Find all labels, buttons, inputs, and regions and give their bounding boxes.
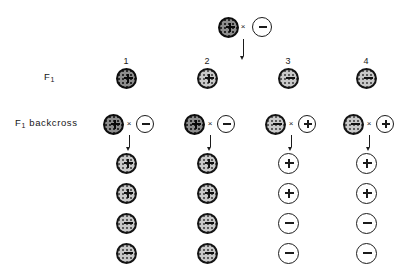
minus-sign — [358, 68, 375, 89]
arrow-shaft — [369, 135, 370, 147]
arrow-shaft — [291, 135, 292, 147]
f1-individual-4 — [356, 68, 377, 89]
sign-bar-horizontal — [273, 123, 282, 124]
minus-sign — [118, 213, 135, 234]
offspring-column-1-row-2 — [116, 183, 137, 204]
backcross-parent-3 — [265, 114, 286, 135]
plus-sign — [299, 115, 315, 133]
sign-bar-horizontal — [205, 252, 214, 253]
plus-sign — [118, 153, 135, 174]
sign-bar-vertical — [288, 189, 289, 198]
backcross-cross-symbol-2: × — [205, 119, 215, 128]
plus-sign — [357, 183, 376, 204]
backcross-parent-4 — [343, 114, 364, 135]
arrow-shaft — [243, 39, 244, 56]
minus-sign — [357, 213, 376, 234]
minus-sign — [253, 17, 271, 37]
sign-bar-vertical — [127, 189, 128, 198]
plus-sign — [279, 153, 298, 174]
minus-sign — [357, 243, 376, 264]
arrow-head — [366, 147, 370, 151]
row-label-subscript: 1 — [50, 76, 54, 83]
arrow-head — [126, 147, 130, 151]
minus-sign — [137, 115, 153, 133]
sign-bar-horizontal — [363, 222, 372, 223]
plus-sign — [105, 114, 122, 135]
plus-sign — [377, 115, 393, 133]
backcross-tester-4 — [376, 115, 394, 133]
backcross-tester-2 — [217, 115, 235, 133]
plus-sign — [220, 17, 237, 38]
plus-sign — [118, 68, 135, 89]
parental-cross-symbol: × — [238, 22, 248, 31]
arrow-shaft — [210, 135, 211, 147]
offspring-column-3-row-4 — [278, 243, 299, 264]
parental-female-circle — [218, 17, 239, 38]
genetics-cross-diagram: ×F11234F1backcross×××× — [0, 0, 407, 280]
f1-row-label: F1 — [44, 71, 54, 83]
sign-bar-horizontal — [124, 252, 133, 253]
sign-bar-horizontal — [205, 222, 214, 223]
f1-column-number-4: 4 — [356, 56, 376, 66]
offspring-column-4-row-2 — [356, 183, 377, 204]
sign-bar-horizontal — [259, 26, 267, 27]
sign-bar-vertical — [208, 159, 209, 168]
sign-bar-horizontal — [363, 252, 372, 253]
backcross-descent-arrow-1 — [125, 135, 134, 151]
sign-bar-horizontal — [285, 252, 294, 253]
sign-bar-horizontal — [124, 222, 133, 223]
plus-sign — [186, 114, 203, 135]
parental-descent-arrow — [239, 39, 248, 60]
backcross-row-label: F1backcross — [15, 117, 77, 129]
f1-column-number-3: 3 — [278, 56, 298, 66]
sign-bar-vertical — [127, 74, 128, 83]
offspring-column-3-row-1 — [278, 153, 299, 174]
backcross-cross-symbol-1: × — [124, 119, 134, 128]
arrow-head — [240, 56, 244, 60]
f1-column-number-2: 2 — [197, 56, 217, 66]
offspring-column-1-row-3 — [116, 213, 137, 234]
arrow-head — [288, 147, 292, 151]
plus-sign — [199, 68, 216, 89]
sign-bar-vertical — [114, 120, 115, 129]
offspring-column-3-row-2 — [278, 183, 299, 204]
sign-bar-vertical — [307, 120, 308, 128]
sign-bar-horizontal — [223, 123, 231, 124]
offspring-column-1-row-1 — [116, 153, 137, 174]
f1-individual-3 — [278, 68, 299, 89]
offspring-column-4-row-3 — [356, 213, 377, 234]
sign-bar-vertical — [229, 23, 230, 32]
backcross-tester-1 — [136, 115, 154, 133]
row-label-rest: backcross — [29, 117, 77, 128]
arrow-shaft — [129, 135, 130, 147]
offspring-column-4-row-4 — [356, 243, 377, 264]
backcross-descent-arrow-4 — [365, 135, 374, 151]
sign-bar-horizontal — [286, 77, 295, 78]
minus-sign — [279, 243, 298, 264]
offspring-column-1-row-4 — [116, 243, 137, 264]
sign-bar-vertical — [208, 74, 209, 83]
sign-bar-vertical — [366, 159, 367, 168]
sign-bar-vertical — [208, 189, 209, 198]
backcross-tester-3 — [298, 115, 316, 133]
sign-bar-horizontal — [351, 123, 360, 124]
offspring-column-2-row-3 — [197, 213, 218, 234]
minus-sign — [218, 115, 234, 133]
f1-individual-1 — [116, 68, 137, 89]
plus-sign — [199, 183, 216, 204]
sign-bar-vertical — [195, 120, 196, 129]
sign-bar-vertical — [385, 120, 386, 128]
offspring-column-2-row-4 — [197, 243, 218, 264]
backcross-parent-1 — [103, 114, 124, 135]
backcross-descent-arrow-3 — [287, 135, 296, 151]
minus-sign — [345, 114, 362, 135]
offspring-column-4-row-1 — [356, 153, 377, 174]
offspring-column-2-row-1 — [197, 153, 218, 174]
minus-sign — [118, 243, 135, 264]
paper-texture — [0, 0, 407, 280]
row-label-subscript: 1 — [21, 122, 25, 129]
parental-male-circle — [252, 17, 272, 37]
minus-sign — [199, 243, 216, 264]
minus-sign — [267, 114, 284, 135]
offspring-column-2-row-2 — [197, 183, 218, 204]
